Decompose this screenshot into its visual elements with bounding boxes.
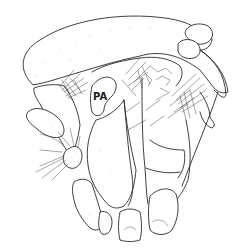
anatomical-illustration: PA — [0, 0, 236, 248]
label-pa: PA — [93, 91, 107, 102]
right-body-block — [146, 140, 185, 178]
antennal-segment — [178, 40, 200, 59]
reticulate-pattern — [146, 66, 172, 92]
right-slanted-edge — [176, 120, 190, 200]
bristle-cluster-center — [122, 58, 150, 96]
lower-right-segment — [149, 189, 179, 235]
bristle-sparse-middle — [126, 92, 170, 130]
lower-middle-segment — [119, 209, 142, 242]
central-column-right — [142, 78, 148, 204]
bristle-cluster-right — [168, 74, 208, 120]
lower-left-tip — [99, 211, 112, 234]
